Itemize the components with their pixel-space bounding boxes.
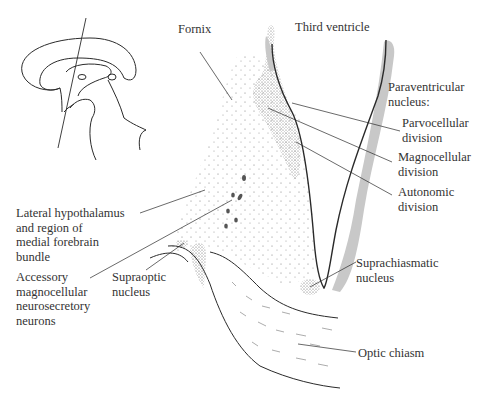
- label-suprachiasmatic-nucleus: Suprachiasmatic nucleus: [356, 256, 439, 285]
- ventricle-wall-right: [332, 41, 394, 292]
- label-parvocellular-division: Parvocellular division: [402, 116, 469, 145]
- label-paraventricular-nucleus: Paraventricular nucleus:: [388, 80, 464, 109]
- supraoptic-nucleus: [190, 243, 206, 288]
- label-third-ventricle: Third ventricle: [295, 20, 370, 35]
- label-supraoptic-nucleus: Supraoptic nucleus: [112, 270, 166, 299]
- label-accessory-neurons: Accessory magnocellular neurosecretory n…: [16, 270, 90, 328]
- label-autonomic-division: Autonomic division: [398, 185, 454, 214]
- sagittal-brain-inset: [22, 18, 146, 160]
- label-fornix: Fornix: [178, 22, 211, 37]
- label-lateral-hypothalamus: Lateral hypothalamus and region of media…: [16, 206, 125, 264]
- label-magnocellular-division: Magnocellular division: [398, 150, 471, 179]
- optic-fibers: [232, 282, 332, 366]
- label-optic-chiasm: Optic chiasm: [358, 346, 424, 361]
